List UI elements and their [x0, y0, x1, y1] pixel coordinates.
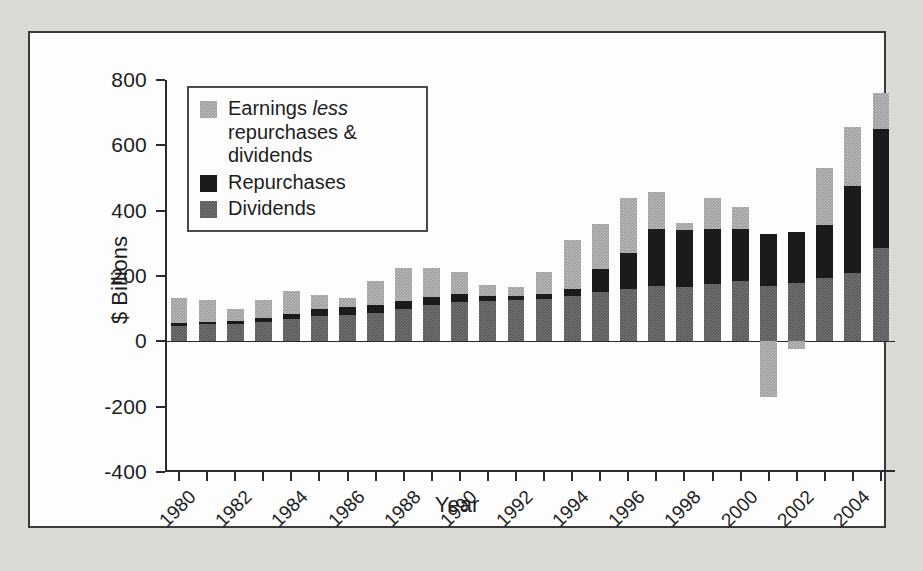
zero-reference-line — [165, 341, 895, 342]
bar-group — [592, 80, 609, 472]
legend-item-dividends: Dividends — [200, 197, 410, 221]
bar-segment-repurchases — [704, 229, 721, 285]
legend-item-repurchases: Repurchases — [200, 171, 410, 195]
bar-segment-dividends — [283, 319, 300, 341]
bar-segment-earnings-less — [367, 281, 384, 306]
bar-segment-repurchases — [816, 225, 833, 277]
bar-segment-dividends — [508, 300, 525, 341]
dividends-swatch-icon — [200, 201, 217, 218]
x-tick-label: 1996 — [597, 486, 649, 538]
bar-segment-dividends — [676, 287, 693, 341]
bar-segment-repurchases — [423, 297, 440, 305]
bar-segment-earnings-less — [451, 272, 468, 294]
bar-segment-dividends — [255, 322, 272, 342]
bar-segment-dividends — [844, 273, 861, 342]
bar-segment-earnings-less — [648, 192, 665, 229]
bar-segment-earnings-less — [423, 268, 440, 297]
bar-segment-repurchases — [620, 253, 637, 289]
bar-segment-dividends — [395, 309, 412, 342]
bar-segment-repurchases — [788, 232, 805, 283]
bar-segment-dividends — [788, 283, 805, 342]
x-tick-label: 2004 — [822, 486, 874, 538]
y-tick-label: 200 — [111, 264, 147, 288]
bar-segment-repurchases — [676, 230, 693, 287]
bar-segment-dividends — [732, 281, 749, 341]
bar-segment-dividends — [873, 248, 890, 341]
bar-segment-repurchases — [255, 318, 272, 321]
y-tick-label: 800 — [111, 68, 147, 92]
bar-segment-earnings-less — [732, 207, 749, 229]
x-axis-tick-labels: 1980198219841986198819901992199419961998… — [165, 472, 895, 542]
bar-segment-earnings-less — [620, 198, 637, 253]
bar-segment-repurchases — [199, 322, 216, 325]
bar-segment-earnings-less — [508, 287, 525, 295]
bar-segment-earnings-less — [592, 224, 609, 269]
bar-group — [536, 80, 553, 472]
bar-segment-dividends — [423, 305, 440, 341]
y-tick — [156, 275, 165, 277]
figure-panel: $ Billions Year 8006004002000-200-400 19… — [28, 31, 886, 528]
bar-segment-repurchases — [508, 296, 525, 301]
x-tick-label: 1984 — [261, 486, 313, 538]
bar-segment-repurchases — [648, 229, 665, 286]
bar-segment-earnings-less — [873, 93, 890, 129]
x-tick-label: 1992 — [485, 486, 537, 538]
bar-segment-repurchases — [367, 305, 384, 312]
y-tick — [156, 406, 165, 408]
y-tick-label: 600 — [111, 133, 147, 157]
bar-segment-earnings-less — [676, 223, 693, 231]
legend-item-earnings: Earnings less repurchases & dividends — [200, 97, 410, 168]
bar-group — [676, 80, 693, 472]
bar-segment-dividends — [648, 286, 665, 342]
bar-segment-earnings-less — [760, 341, 777, 397]
repurchases-swatch-icon — [200, 175, 217, 192]
y-tick-label: -400 — [104, 460, 147, 484]
bar-segment-repurchases — [592, 269, 609, 292]
bar-group — [620, 80, 637, 472]
x-tick-label: 1994 — [541, 486, 593, 538]
bar-segment-dividends — [816, 278, 833, 342]
bar-group — [479, 80, 496, 472]
bar-segment-dividends — [227, 324, 244, 341]
bar-segment-earnings-less — [844, 127, 861, 186]
bar-segment-repurchases — [732, 229, 749, 281]
bar-segment-dividends — [760, 286, 777, 342]
x-tick-label: 1986 — [317, 486, 369, 538]
bar-segment-repurchases — [479, 296, 496, 301]
bar-group — [704, 80, 721, 472]
bar-segment-earnings-less — [704, 198, 721, 229]
bar-segment-earnings-less — [171, 298, 188, 323]
legend-label-dividends: Dividends — [228, 197, 316, 221]
bar-group — [564, 80, 581, 472]
y-tick — [156, 210, 165, 212]
figure-background: $ Billions Year 8006004002000-200-400 19… — [0, 0, 923, 571]
y-tick-label: 400 — [111, 199, 147, 223]
bar-segment-repurchases — [395, 301, 412, 309]
bar-segment-repurchases — [283, 314, 300, 319]
bar-segment-earnings-less — [788, 341, 805, 349]
bar-group — [732, 80, 749, 472]
bar-group — [451, 80, 468, 472]
bar-segment-earnings-less — [564, 240, 581, 289]
bar-segment-repurchases — [873, 129, 890, 248]
plot-area: 8006004002000-200-400 198019821984198619… — [165, 80, 895, 472]
y-tick — [156, 471, 165, 473]
bar-segment-earnings-less — [227, 309, 244, 321]
bar-segment-dividends — [536, 299, 553, 341]
bar-segment-earnings-less — [479, 285, 496, 296]
bar-segment-earnings-less — [311, 295, 328, 309]
bar-segment-repurchases — [171, 323, 188, 326]
bar-segment-repurchases — [451, 294, 468, 302]
bar-segment-earnings-less — [283, 291, 300, 314]
bar-group — [508, 80, 525, 472]
bar-group — [844, 80, 861, 472]
bar-group — [873, 80, 890, 472]
bar-segment-repurchases — [844, 186, 861, 273]
bar-group — [760, 80, 777, 472]
bar-segment-earnings-less — [536, 272, 553, 294]
x-tick-label: 1998 — [654, 486, 706, 538]
bar-segment-dividends — [367, 313, 384, 342]
bar-segment-earnings-less — [339, 298, 356, 307]
x-tick-label: 2000 — [710, 486, 762, 538]
y-axis-line — [165, 80, 167, 472]
